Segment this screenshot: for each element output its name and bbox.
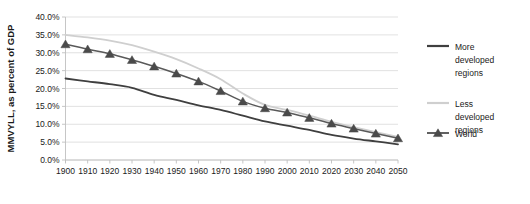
x-tick-label: 1940 [145, 166, 164, 176]
y-tick-label: 40.0% [35, 12, 60, 22]
legend-label-2: World [455, 129, 477, 139]
x-tick-label: 2040 [366, 166, 385, 176]
legend-label-1: Less [455, 99, 473, 109]
line-chart: 0.0%5.0%10.0%15.0%20.0%25.0%30.0%35.0%40… [0, 0, 530, 204]
x-tick-label: 2010 [300, 166, 319, 176]
y-tick-label: 5.0% [40, 137, 60, 147]
y-tick-label: 15.0% [35, 101, 60, 111]
y-axis-tick-labels: 0.0%5.0%10.0%15.0%20.0%25.0%30.0%35.0%40… [35, 12, 60, 165]
legend-label-0: regions [455, 68, 483, 78]
series-marker-triangle [61, 40, 70, 48]
x-tick-label: 1930 [123, 166, 142, 176]
legend-label-1: developed [455, 112, 495, 122]
chart-container: 0.0%5.0%10.0%15.0%20.0%25.0%30.0%35.0%40… [0, 0, 530, 204]
x-tick-label: 2020 [322, 166, 341, 176]
x-tick-label: 1900 [56, 166, 75, 176]
x-axis-tick-labels: 1900191019201930194019501960197019801990… [56, 166, 408, 176]
y-tick-label: 35.0% [35, 30, 60, 40]
y-axis-title-text: MMVYLL, as percent of GDP [5, 24, 16, 152]
y-tick-label: 25.0% [35, 66, 60, 76]
x-tick-label: 1920 [100, 166, 119, 176]
x-tick-label: 1960 [189, 166, 208, 176]
x-tick-label: 2000 [278, 166, 297, 176]
chart-legend: MoredevelopedregionsLessdevelopedregions… [427, 42, 495, 139]
x-tick-label: 2030 [344, 166, 363, 176]
x-tick-label: 2050 [389, 166, 408, 176]
y-tick-label: 30.0% [35, 48, 60, 58]
series-marker-triangle [194, 77, 203, 85]
axes-group [62, 17, 398, 164]
y-axis-title: MMVYLL, as percent of GDP [5, 24, 16, 152]
legend-label-0: More [455, 42, 475, 52]
legend-label-0: developed [455, 55, 495, 65]
series-marker-triangle [216, 87, 225, 95]
y-tick-label: 20.0% [35, 84, 60, 94]
data-series-group [61, 35, 403, 144]
x-tick-label: 1980 [233, 166, 252, 176]
x-tick-label: 1990 [256, 166, 275, 176]
y-tick-label: 10.0% [35, 119, 60, 129]
y-tick-label: 0.0% [40, 155, 60, 165]
x-tick-label: 1910 [78, 166, 97, 176]
x-tick-label: 1970 [211, 166, 230, 176]
series-marker-triangle [238, 97, 247, 105]
x-tick-label: 1950 [167, 166, 186, 176]
